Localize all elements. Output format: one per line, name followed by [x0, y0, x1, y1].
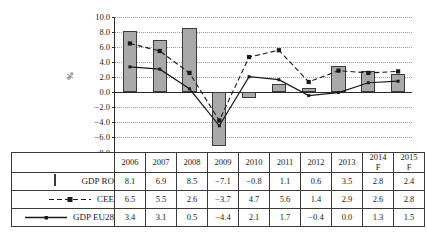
- column-header-2007: 2007: [146, 153, 177, 173]
- table-header-row: 200620072008200920102011201220132014F201…: [12, 153, 425, 173]
- data-point-marker: [218, 124, 221, 127]
- y-tick-label: −4.0: [95, 118, 110, 127]
- table-cell: −7.1: [208, 173, 239, 191]
- table-cell: 2.1: [239, 209, 270, 227]
- line-series-layer: [115, 17, 413, 153]
- chart-figure: % 10.08.06.04.02.00.0−2.0−4.0−6.0−8.0 20…: [0, 0, 427, 238]
- data-point-marker: [188, 87, 191, 90]
- table-cell: 8.1: [115, 173, 146, 191]
- data-point-marker: [247, 54, 251, 58]
- data-point-marker: [187, 70, 191, 74]
- data-point-marker: [128, 41, 132, 45]
- table-cell: 1.3: [363, 209, 394, 227]
- table-row: GDP EU283.43.10.5−4.42.11.7−0.40.01.31.5: [12, 209, 425, 227]
- column-header-2011: 2011: [270, 153, 301, 173]
- legend-cell-gdp-eu28: GDP EU28: [12, 209, 115, 227]
- data-point-marker: [366, 70, 370, 74]
- data-point-marker: [158, 48, 162, 52]
- data-point-marker: [336, 68, 340, 72]
- data-point-marker: [128, 65, 131, 68]
- chart-plot-region: % 10.08.06.04.02.00.0−2.0−4.0−6.0−8.0: [0, 0, 427, 152]
- data-point-marker: [337, 91, 340, 94]
- column-header-2012: 2012: [301, 153, 332, 173]
- table-cell: 5.6: [270, 191, 301, 209]
- table-row: CEE6.55.52.6−3.74.75.61.42.92.62.8: [12, 191, 425, 209]
- legend-label: CEE: [97, 195, 114, 205]
- table-cell: 8.5: [177, 173, 208, 191]
- legend-label: GDP EU28: [73, 213, 114, 223]
- table-cell: 2.9: [332, 191, 363, 209]
- column-header-2015: 2015F: [394, 153, 425, 173]
- table-cell: 0.5: [177, 209, 208, 227]
- legend-cell-cee: CEE: [12, 191, 115, 209]
- table-cell: 1.1: [270, 173, 301, 191]
- table-cell: 2.4: [394, 173, 425, 191]
- y-tick-label: 10.0: [95, 13, 110, 22]
- data-point-marker: [307, 94, 310, 97]
- table-cell: 2.6: [363, 191, 394, 209]
- legend-cell-gdp-ro: GDP RO: [12, 173, 115, 191]
- header-legend-blank: [12, 153, 115, 173]
- table-cell: −3.7: [208, 191, 239, 209]
- y-tick-label: −2.0: [95, 103, 110, 112]
- data-point-marker: [217, 118, 221, 122]
- data-table: 200620072008200920102011201220132014F201…: [11, 152, 425, 227]
- header-line2: F: [394, 163, 424, 173]
- data-point-marker: [158, 67, 161, 70]
- table-cell: 3.1: [146, 209, 177, 227]
- column-header-2006: 2006: [115, 153, 146, 173]
- table-cell: −0.4: [301, 209, 332, 227]
- table-row: GDP RO8.16.98.5−7.1−0.81.10.63.52.82.4: [12, 173, 425, 191]
- table-cell: 1.7: [270, 209, 301, 227]
- table-cell: 2.8: [363, 173, 394, 191]
- table-cell: 0.6: [301, 173, 332, 191]
- line-series-gdp-eu28: [130, 66, 398, 125]
- column-header-2008: 2008: [177, 153, 208, 173]
- legend-swatch-dashed-line: [48, 194, 92, 205]
- table-cell: 1.5: [394, 209, 425, 227]
- column-header-2013: 2013: [332, 153, 363, 173]
- line-series-cee: [130, 43, 398, 120]
- y-tick-label: 6.0: [99, 43, 110, 52]
- plot-canvas: [114, 17, 412, 153]
- table-cell: 2.6: [177, 191, 208, 209]
- y-tick-label: 4.0: [99, 58, 110, 67]
- y-tick-label: 0.0: [99, 88, 110, 97]
- y-axis-tick-labels: 10.08.06.04.02.00.0−2.0−4.0−6.0−8.0: [80, 12, 112, 157]
- table-cell: 0.0: [332, 209, 363, 227]
- table-body: GDP RO8.16.98.5−7.1−0.81.10.63.52.82.4CE…: [12, 173, 425, 227]
- data-point-marker: [397, 79, 400, 82]
- legend-swatch-solid-line: [24, 212, 68, 223]
- legend-swatch-bar: [33, 176, 77, 187]
- table-cell: 3.5: [332, 173, 363, 191]
- table-cell: 6.5: [115, 191, 146, 209]
- data-point-marker: [396, 69, 400, 73]
- table-cell: 1.4: [301, 191, 332, 209]
- data-point-marker: [277, 48, 281, 52]
- y-tick-label: 2.0: [99, 73, 110, 82]
- table-cell: 5.5: [146, 191, 177, 209]
- data-point-marker: [307, 79, 311, 83]
- data-point-marker: [367, 81, 370, 84]
- column-header-2014: 2014F: [363, 153, 394, 173]
- legend-label: GDP RO: [82, 177, 114, 187]
- y-axis-title: %: [58, 69, 82, 83]
- y-tick-label: −6.0: [95, 133, 110, 142]
- table-cell: −4.4: [208, 209, 239, 227]
- table-cell: 6.9: [146, 173, 177, 191]
- table-cell: 2.8: [394, 191, 425, 209]
- column-header-2010: 2010: [239, 153, 270, 173]
- table-cell: 3.4: [115, 209, 146, 227]
- data-point-marker: [248, 75, 251, 78]
- header-line2: F: [363, 163, 393, 173]
- table-cell: 4.7: [239, 191, 270, 209]
- column-header-2009: 2009: [208, 153, 239, 173]
- table-cell: −0.8: [239, 173, 270, 191]
- data-point-marker: [277, 78, 280, 81]
- y-tick-label: 8.0: [99, 28, 110, 37]
